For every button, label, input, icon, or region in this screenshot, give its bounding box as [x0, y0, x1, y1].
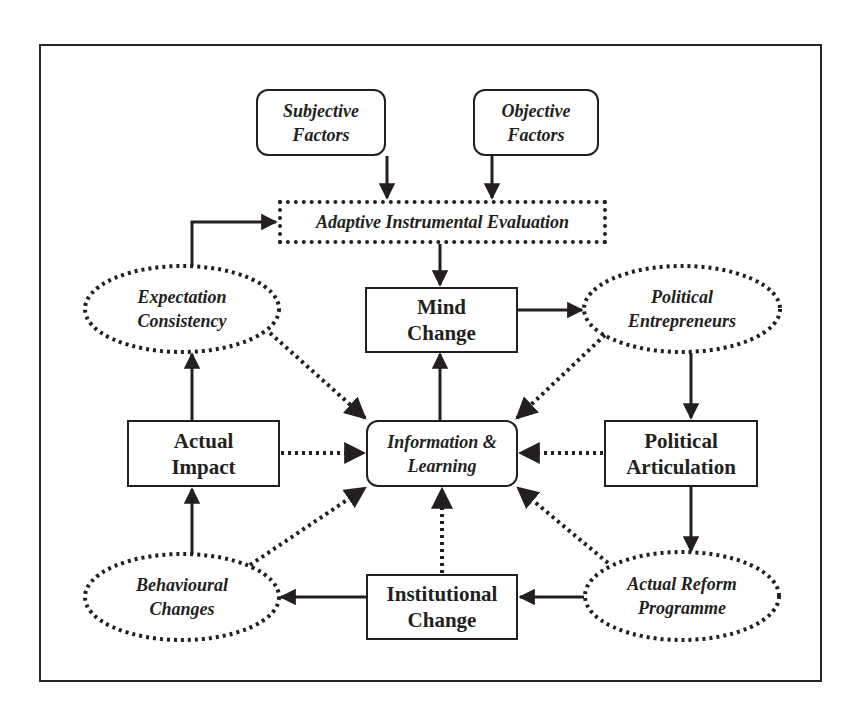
node-institutional-change: Institutional Change: [366, 574, 518, 640]
node-label: Behavioural Changes: [136, 573, 228, 621]
node-label: Information & Learning: [387, 430, 497, 478]
node-label: Subjective Factors: [283, 99, 359, 147]
node-objective-factors: Objective Factors: [473, 89, 599, 156]
dotted-arrow-reform-to-information: [518, 488, 608, 563]
node-label: Adaptive Instrumental Evaluation: [316, 210, 569, 234]
node-actual-reform-programme: Actual Reform Programme: [585, 553, 779, 639]
node-label: Political Articulation: [626, 428, 736, 480]
node-behavioural-changes: Behavioural Changes: [85, 554, 279, 640]
node-label: Objective Factors: [502, 99, 571, 147]
node-subjective-factors: Subjective Factors: [256, 89, 386, 156]
node-label: Political Entrepreneurs: [628, 285, 736, 333]
node-label: Institutional Change: [387, 581, 498, 633]
node-label: Actual Reform Programme: [627, 572, 737, 620]
node-expectation-consistency: Expectation Consistency: [85, 266, 279, 352]
node-label: Actual Impact: [171, 428, 235, 480]
node-mind-change: Mind Change: [365, 287, 518, 353]
arrow-expectation-to-evaluation: [192, 222, 276, 266]
node-political-articulation: Political Articulation: [604, 420, 758, 487]
node-label: Expectation Consistency: [137, 285, 226, 333]
node-information-learning: Information & Learning: [366, 420, 518, 487]
node-adaptive-instrumental-evaluation: Adaptive Instrumental Evaluation: [278, 200, 607, 244]
dotted-arrow-expectation-to-information: [270, 333, 365, 418]
node-actual-impact: Actual Impact: [127, 420, 280, 487]
node-political-entrepreneurs: Political Entrepreneurs: [585, 266, 779, 352]
node-label: Mind Change: [407, 294, 476, 346]
